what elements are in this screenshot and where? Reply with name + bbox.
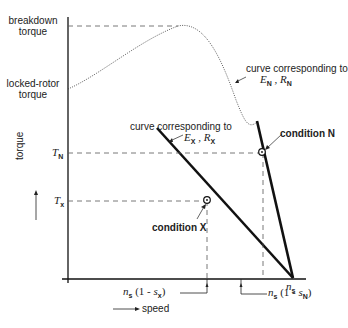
TN-label: TN (52, 147, 63, 162)
nsn-label: ns (1 - sN) (268, 287, 312, 302)
curve-X-annotation: curve corresponding to EX , RX (130, 121, 232, 147)
locked-rotor-torque-label: locked-rotor torque (0, 78, 66, 100)
speed-axis-label: speed (142, 303, 169, 314)
TX-label: Tx (54, 195, 64, 210)
condition-N-label: condition N (280, 128, 335, 139)
torque-axis-label: torque (14, 132, 25, 170)
curve-N-annotation: curve corresponding to EN , RN (246, 63, 348, 89)
breakdown-torque-label: breakdown torque (2, 15, 64, 37)
curve-N-line (257, 121, 293, 278)
torque-speed-curve-dotted (68, 25, 257, 124)
nsx-label: ns (1 - sx) (123, 286, 165, 301)
curve-X-line (157, 128, 293, 278)
condition-X-label: condition X (152, 222, 206, 233)
